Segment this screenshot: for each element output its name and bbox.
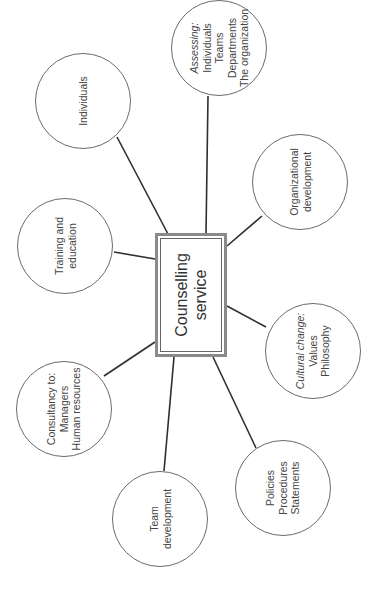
node-line: Individuals: [77, 51, 90, 151]
connector-assessing: [206, 96, 208, 234]
node-line: development: [300, 132, 313, 232]
node-policies: Policies Procedures Statements: [235, 440, 331, 536]
node-label: Assessing: Individuals Teams Departments…: [188, 0, 251, 98]
node-label: Consultancy to: Managers Human resources: [45, 359, 83, 459]
node-line: Individuals: [200, 0, 213, 98]
node-line: education: [65, 196, 78, 296]
center-label: Counselling service: [172, 235, 210, 355]
center-line: Counselling: [172, 235, 191, 355]
center-hub-counselling-service: Counselling service: [155, 233, 227, 357]
connector-organizational: [227, 216, 262, 246]
node-label: Policies Procedures Statements: [264, 438, 302, 538]
node-team-development: Team development: [112, 471, 208, 567]
node-line: Teams: [213, 0, 226, 98]
node-line: Departments: [225, 0, 238, 98]
node-line: Policies: [264, 438, 277, 538]
node-cultural-change: Cultural change: Values Philosophy: [265, 303, 361, 399]
node-assessing: Assessing: Individuals Teams Departments…: [171, 0, 267, 96]
node-organizational-development: Organizational development: [252, 134, 348, 230]
node-label: Training and education: [53, 196, 78, 296]
connector-cultural: [227, 306, 266, 327]
connector-consultancy: [104, 342, 155, 376]
node-label: Team development: [148, 469, 173, 569]
node-line: Human resources: [70, 359, 83, 459]
node-line: The organization: [238, 0, 251, 98]
node-heading: Assessing:: [188, 0, 201, 98]
connector-policies: [213, 357, 256, 448]
connector-team: [164, 357, 174, 471]
center-line: service: [191, 235, 210, 355]
node-label: Organizational development: [288, 132, 313, 232]
connector-individuals: [117, 137, 168, 234]
node-line: Team: [148, 469, 161, 569]
node-line: Values: [307, 301, 320, 401]
node-line: Statements: [289, 438, 302, 538]
node-label: Cultural change: Values Philosophy: [294, 301, 332, 401]
node-line: Philosophy: [319, 301, 332, 401]
node-line: Training and: [53, 196, 66, 296]
node-line: Organizational: [288, 132, 301, 232]
node-line: Managers: [58, 359, 71, 459]
counselling-service-diagram: Assessing: Individuals Teams Departments…: [0, 0, 381, 597]
node-line: Procedures: [277, 438, 290, 538]
connector-training: [114, 252, 155, 259]
node-training-education: Training and education: [17, 198, 113, 294]
node-line: development: [160, 469, 173, 569]
node-heading: Consultancy to:: [45, 359, 58, 459]
node-individuals: Individuals: [35, 53, 131, 149]
node-label: Individuals: [77, 51, 90, 151]
node-consultancy: Consultancy to: Managers Human resources: [16, 361, 112, 457]
node-heading: Cultural change:: [294, 301, 307, 401]
